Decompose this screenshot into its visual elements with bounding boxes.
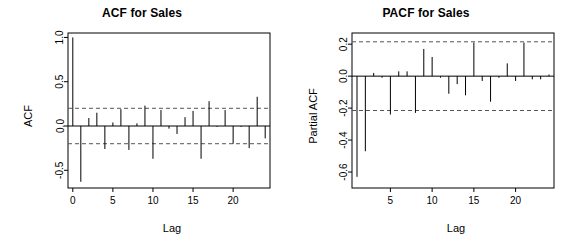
x-tick-label: 15 <box>187 195 199 206</box>
y-tick-label: -0.2 <box>339 99 350 117</box>
x-tick-label: 0 <box>70 195 76 206</box>
y-tick-label: 0.0 <box>339 69 350 83</box>
acf-panel: ACF for Sales ACF Lag 1.00.50.0-0.505101… <box>0 0 284 244</box>
x-tick-label: 10 <box>427 195 439 206</box>
x-tick-label: 5 <box>110 195 116 206</box>
y-tick-label: 0.0 <box>55 119 66 133</box>
pacf-plot-area: 0.20.0-0.2-0.4-0.65101520 <box>284 0 568 244</box>
acf-pacf-figure: ACF for Sales ACF Lag 1.00.50.0-0.505101… <box>0 0 568 244</box>
y-tick-label: 0.5 <box>55 74 66 88</box>
y-tick-label: -0.5 <box>55 161 66 179</box>
y-tick-label: 1.0 <box>55 30 66 44</box>
x-tick-label: 15 <box>468 195 480 206</box>
y-tick-label: -0.6 <box>339 163 350 181</box>
y-tick-label: 0.2 <box>339 37 350 51</box>
x-tick-label: 20 <box>510 195 522 206</box>
acf-plot-area: 1.00.50.0-0.505101520 <box>0 0 284 244</box>
y-tick-label: -0.4 <box>339 131 350 149</box>
x-tick-label: 5 <box>388 195 394 206</box>
pacf-panel: PACF for Sales Partial ACF Lag 0.20.0-0.… <box>284 0 568 244</box>
x-tick-label: 20 <box>228 195 240 206</box>
x-tick-label: 10 <box>147 195 159 206</box>
plot-frame <box>68 33 270 188</box>
